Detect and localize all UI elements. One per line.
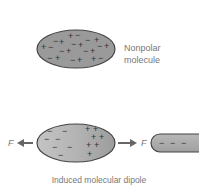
svg-text:−: − — [58, 150, 63, 160]
svg-text:−: − — [98, 53, 103, 63]
dipole-diagram: + − − + − + + − − + − + − + − + − + − + … — [0, 0, 199, 190]
left-force-arrow — [17, 139, 33, 147]
svg-text:+: + — [55, 53, 60, 63]
svg-text:−: − — [71, 39, 76, 49]
nonpolar-label-line2: molecule — [124, 55, 160, 65]
svg-text:−: − — [181, 138, 186, 148]
svg-text:+: + — [41, 42, 46, 52]
dipole-caption: Induced molecular dipole — [52, 175, 147, 185]
force-label-left: F — [8, 138, 14, 148]
nonpolar-label-line1: Nonpolar — [124, 43, 161, 53]
svg-text:−: − — [70, 55, 75, 65]
svg-text:+: + — [85, 124, 90, 134]
svg-text:−: − — [53, 36, 58, 46]
svg-text:+: + — [77, 55, 82, 65]
nonpolar-molecule: + − − + − + + − − + − + − + − + − + − + … — [37, 30, 115, 68]
svg-text:+: + — [104, 41, 109, 51]
svg-text:−: − — [48, 42, 53, 52]
svg-text:−: − — [170, 138, 175, 148]
force-label-right: F — [141, 138, 147, 148]
svg-text:+: + — [94, 140, 99, 150]
svg-text:−: − — [52, 142, 57, 152]
svg-text:−: − — [47, 53, 52, 63]
svg-text:−: − — [159, 138, 164, 148]
svg-text:−: − — [85, 35, 90, 45]
svg-text:−: − — [67, 142, 72, 152]
svg-text:−: − — [97, 41, 102, 51]
charged-rod: − − − — [151, 134, 199, 152]
svg-text:−: − — [62, 126, 67, 136]
svg-text:+: + — [91, 54, 96, 64]
svg-text:−: − — [44, 134, 49, 144]
svg-text:+: + — [87, 149, 92, 159]
induced-dipole-molecule: − − − − − − − + + + + + + + — [37, 124, 115, 162]
svg-text:+: + — [99, 132, 104, 142]
svg-text:−: − — [83, 46, 88, 56]
right-force-arrow — [118, 139, 137, 147]
